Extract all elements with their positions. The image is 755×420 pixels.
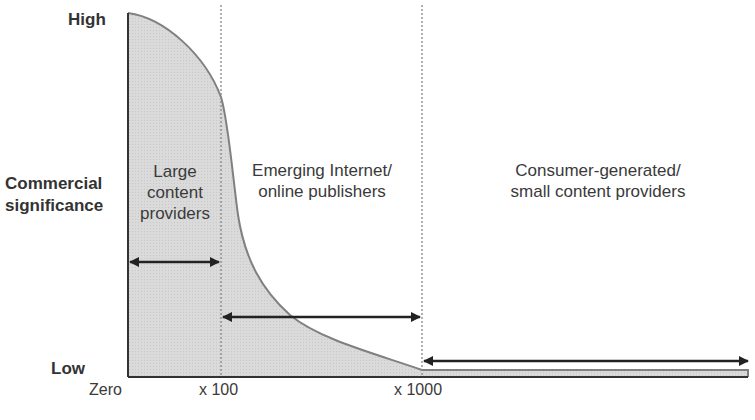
region-label-large-providers: Large content providers: [130, 161, 220, 224]
region-consumer-line2: small content providers: [478, 181, 718, 202]
y-axis-title-line2: significance: [5, 196, 103, 216]
y-tick-low: Low: [51, 359, 85, 379]
region-emerging-line2: online publishers: [232, 181, 412, 202]
region-consumer-line1: Consumer-generated/: [478, 160, 718, 181]
y-tick-high: High: [68, 10, 106, 30]
x-tick-1000: x 1000: [394, 381, 442, 399]
x-tick-zero: Zero: [89, 381, 122, 399]
region-large-line2: content: [130, 182, 220, 203]
region-label-emerging-publishers: Emerging Internet/ online publishers: [232, 160, 412, 202]
x-tick-100: x 100: [199, 381, 238, 399]
region-large-line1: Large: [130, 161, 220, 182]
long-tail-chart: [0, 0, 755, 420]
region-emerging-line1: Emerging Internet/: [232, 160, 412, 181]
region-large-line3: providers: [130, 203, 220, 224]
y-axis-title-line1: Commercial: [5, 174, 102, 194]
region-label-consumer-generated: Consumer-generated/ small content provid…: [478, 160, 718, 202]
